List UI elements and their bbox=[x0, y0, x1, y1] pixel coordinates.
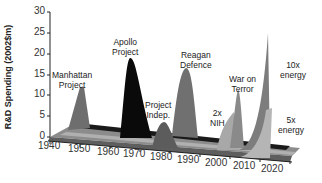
y-tick-30: 30 bbox=[27, 5, 45, 16]
annotation-reagan: Reagan Defence bbox=[180, 50, 212, 70]
series-reagan bbox=[172, 68, 198, 138]
x-tick-2020: 2020 bbox=[261, 163, 283, 174]
x-tick-1970: 1970 bbox=[123, 148, 145, 159]
y-tick-25: 25 bbox=[27, 26, 45, 37]
x-tick-1990: 1990 bbox=[177, 154, 199, 165]
series-manhattan bbox=[68, 87, 90, 130]
x-tick-2000: 2000 bbox=[205, 157, 227, 168]
annotation-project-indep: Project Indep. bbox=[145, 100, 171, 120]
x-tick-2010: 2010 bbox=[233, 160, 255, 171]
x-tick-1950: 1950 bbox=[68, 143, 90, 154]
annotation-manhattan: Manhattan Project bbox=[52, 70, 92, 90]
x-tick-1980: 1980 bbox=[150, 151, 172, 162]
x-tick-1960: 1960 bbox=[97, 146, 119, 157]
annotation-apollo: Apollo Project bbox=[112, 37, 138, 57]
y-tick-10: 10 bbox=[27, 88, 45, 99]
annotation-war-on-terror: War on Terror bbox=[229, 74, 256, 94]
annotation-2x-nih: 2x NIH bbox=[210, 108, 225, 128]
y-axis bbox=[47, 12, 50, 138]
y-tick-5: 5 bbox=[27, 109, 45, 120]
y-tick-20: 20 bbox=[27, 47, 45, 58]
y-axis-label: R&D Spending (2002$m) bbox=[3, 12, 13, 142]
annotation-5x-energy: 5x energy bbox=[278, 115, 304, 135]
x-tick-1940: 1940 bbox=[38, 140, 60, 151]
y-tick-15: 15 bbox=[27, 68, 45, 79]
annotation-10x-energy: 10x energy bbox=[280, 60, 306, 80]
series-apollo bbox=[120, 58, 152, 138]
